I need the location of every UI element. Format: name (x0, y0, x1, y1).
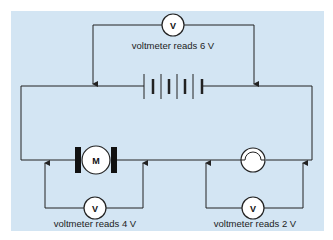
motor-icon: M (75, 146, 117, 174)
voltmeter-top: V voltmeter reads 6 V (93, 14, 254, 84)
svg-text:M: M (92, 156, 100, 166)
voltmeter-top-label: voltmeter reads 6 V (132, 40, 215, 51)
svg-text:V: V (170, 21, 176, 31)
voltmeter-left-label: voltmeter reads 4 V (54, 218, 137, 229)
main-circuit-wire (21, 86, 312, 160)
voltmeter-right-label: voltmeter reads 2 V (214, 218, 297, 229)
svg-text:V: V (250, 204, 256, 214)
battery-icon (144, 74, 202, 99)
svg-text:V: V (92, 204, 98, 214)
circuit-diagram: V voltmeter reads 6 V M V voltmeter read… (0, 0, 333, 240)
lamp-icon (241, 148, 265, 172)
voltmeter-right: V voltmeter reads 2 V (206, 163, 303, 229)
